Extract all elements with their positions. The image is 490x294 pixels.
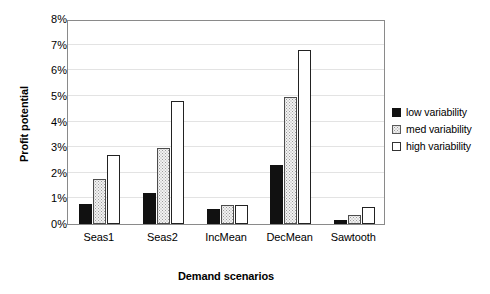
bar <box>143 193 156 224</box>
bar <box>235 205 248 224</box>
legend-swatch-icon <box>392 142 401 151</box>
bar-group <box>270 21 311 224</box>
bar-group <box>207 21 248 224</box>
x-tick-label: Sawtooth <box>321 231 385 243</box>
x-tick-label: DecMean <box>258 231 322 243</box>
bar <box>157 148 170 224</box>
x-tick-label: Seas2 <box>131 231 195 243</box>
bar <box>334 220 347 224</box>
bar <box>284 97 297 224</box>
bar <box>362 207 375 224</box>
x-tick-label: Seas1 <box>67 231 131 243</box>
y-tick-label: 4% <box>33 117 67 128</box>
y-tick-label: 3% <box>33 142 67 153</box>
legend-label: high variability <box>406 141 471 152</box>
bar <box>207 209 220 224</box>
y-tick-label: 0% <box>33 219 67 230</box>
bar <box>171 101 184 224</box>
bar <box>298 50 311 224</box>
bar <box>221 205 234 224</box>
y-axis-title: Profit potential <box>18 54 30 194</box>
y-tick-label: 5% <box>33 91 67 102</box>
legend-item[interactable]: low variability <box>392 104 488 121</box>
plot-area <box>67 20 385 225</box>
bar-group <box>79 21 120 224</box>
x-tick-label: IncMean <box>194 231 258 243</box>
bar-group <box>334 21 375 224</box>
x-axis-title: Demand scenarios <box>67 270 385 282</box>
legend-label: med variability <box>406 124 472 135</box>
legend-label: low variability <box>406 107 467 118</box>
y-tick-label: 2% <box>33 168 67 179</box>
y-tick-label: 8% <box>33 14 67 25</box>
y-tick-label: 1% <box>33 193 67 204</box>
legend-swatch-icon <box>392 108 401 117</box>
legend: low variabilitymed variabilityhigh varia… <box>392 104 488 155</box>
legend-item[interactable]: med variability <box>392 121 488 138</box>
bar <box>93 179 106 224</box>
legend-swatch-icon <box>392 125 401 134</box>
bar <box>348 215 361 224</box>
profit-potential-bar-chart: Profit potential 0%1%2%3%4%5%6%7%8% Seas… <box>0 0 490 294</box>
bar-group <box>143 21 184 224</box>
bar <box>107 155 120 224</box>
bar <box>270 165 283 224</box>
legend-item[interactable]: high variability <box>392 138 488 155</box>
y-tick-label: 7% <box>33 40 67 51</box>
y-tick-label: 6% <box>33 65 67 76</box>
bar <box>79 204 92 225</box>
